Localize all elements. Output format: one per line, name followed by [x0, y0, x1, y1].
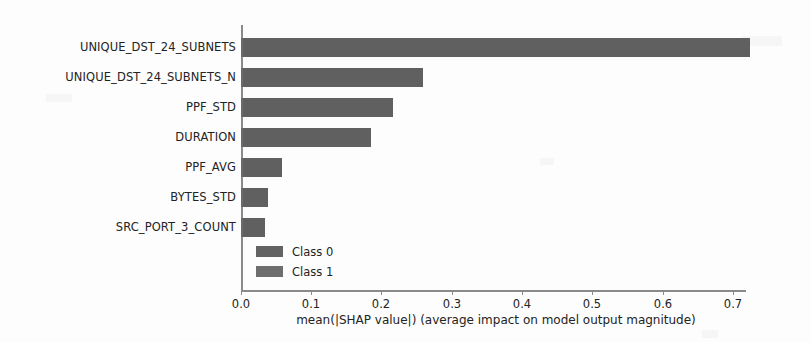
x-axis-tick-label: 0.2	[372, 297, 390, 311]
x-axis-tick-label: 0.6	[654, 297, 672, 311]
bar-row	[241, 38, 750, 57]
legend-label: Class 0	[292, 245, 333, 259]
bar-row	[241, 98, 393, 117]
bar-row	[241, 188, 268, 207]
legend-swatch-icon	[256, 246, 283, 257]
x-axis-tick	[311, 290, 312, 295]
y-axis-tick-label: UNIQUE_DST_24_SUBNETS_N	[11, 70, 236, 84]
x-axis-tick-label: 0.4	[513, 297, 531, 311]
x-axis-title: mean(|SHAP value|) (average impact on mo…	[241, 313, 751, 327]
x-axis-tick-label: 0.0	[232, 297, 250, 311]
x-axis-tick-label: 0.1	[302, 297, 320, 311]
legend-entry-class-0[interactable]: Class 0	[256, 243, 333, 260]
x-axis-tick	[733, 290, 734, 295]
legend-label: Class 1	[292, 265, 333, 279]
x-axis-tick	[592, 290, 593, 295]
bar-src-port-3-count[interactable]	[241, 218, 265, 237]
y-axis-tick-label: PPF_STD	[11, 100, 236, 114]
y-axis-tick-label: DURATION	[11, 130, 236, 144]
x-axis-spine	[241, 290, 746, 292]
bar-ppf-avg[interactable]	[241, 158, 282, 177]
y-axis-labels: UNIQUE_DST_24_SUBNETS UNIQUE_DST_24_SUBN…	[8, 0, 236, 342]
bar-row	[241, 128, 371, 147]
legend: Class 0 Class 1	[256, 243, 333, 283]
x-axis-tick-label: 0.5	[583, 297, 601, 311]
bar-ppf-std[interactable]	[241, 98, 393, 117]
scan-artifact	[540, 158, 554, 165]
y-axis-tick-label: UNIQUE_DST_24_SUBNETS	[11, 40, 236, 54]
x-axis-tick-label: 0.3	[443, 297, 461, 311]
legend-swatch-icon	[256, 266, 283, 277]
x-axis-tick	[241, 290, 242, 295]
x-axis-tick	[452, 290, 453, 295]
y-axis-tick-label: BYTES_STD	[11, 190, 236, 204]
y-axis-tick-label: SRC_PORT_3_COUNT	[11, 220, 236, 234]
x-axis-tick	[522, 290, 523, 295]
bar-row	[241, 68, 423, 87]
y-axis-tick-label: PPF_AVG	[11, 160, 236, 174]
shap-bar-chart-figure: UNIQUE_DST_24_SUBNETS UNIQUE_DST_24_SUBN…	[0, 0, 811, 342]
bar-unique-dst-24-subnets-n[interactable]	[241, 68, 423, 87]
x-axis-tick	[663, 290, 664, 295]
bar-unique-dst-24-subnets[interactable]	[241, 38, 750, 57]
bar-duration[interactable]	[241, 128, 371, 147]
bar-row	[241, 218, 265, 237]
x-axis-tick-label: 0.7	[724, 297, 742, 311]
legend-entry-class-1[interactable]: Class 1	[256, 263, 333, 280]
bar-row	[241, 158, 282, 177]
scan-artifact	[702, 330, 718, 338]
x-axis-tick	[381, 290, 382, 295]
bar-bytes-std[interactable]	[241, 188, 268, 207]
